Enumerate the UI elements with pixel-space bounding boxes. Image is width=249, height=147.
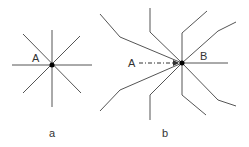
point-a-label: A [32, 52, 40, 64]
bent-line-6 [182, 63, 206, 115]
caption-a: a [49, 127, 56, 139]
diagram-canvas: A a A B b [0, 0, 249, 147]
point-a-dot [50, 63, 55, 68]
point-b-label: B [200, 50, 207, 62]
bent-line-8 [100, 63, 182, 111]
point-a-label-b: A [128, 57, 136, 69]
bent-line-4 [182, 22, 236, 63]
bent-line-1 [100, 14, 182, 63]
point-b-dot [180, 61, 185, 66]
bent-line-7 [150, 63, 182, 120]
bent-line-2 [150, 8, 182, 63]
caption-b: b [162, 127, 168, 139]
figure-a: A a [12, 30, 92, 139]
bent-line-5 [182, 63, 236, 106]
figure-b: A B b [100, 8, 236, 139]
